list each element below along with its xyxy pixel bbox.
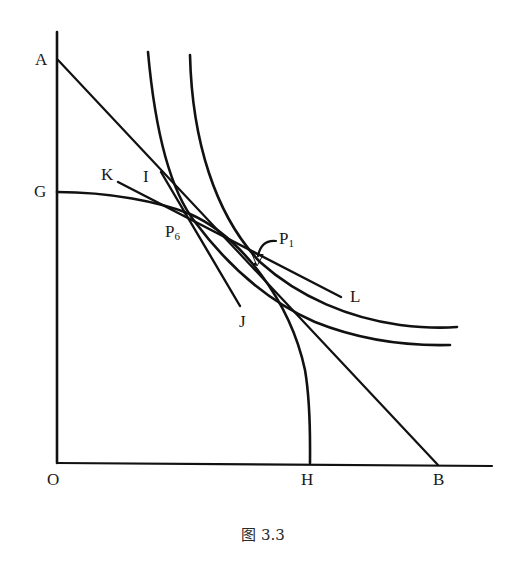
label-p6-sub: 6 xyxy=(174,230,180,242)
label-p1: P1 xyxy=(279,230,294,249)
figure-caption: 图 3.3 xyxy=(0,523,526,544)
label-b: B xyxy=(433,471,444,488)
line-kl xyxy=(118,182,341,297)
label-l: L xyxy=(350,288,360,305)
point-p1 xyxy=(254,263,257,266)
label-h: H xyxy=(301,471,313,488)
point-p6 xyxy=(184,212,187,215)
label-k: K xyxy=(101,166,113,183)
label-p1-sub: 1 xyxy=(288,237,294,249)
label-j: J xyxy=(239,313,246,330)
label-a: A xyxy=(35,51,47,68)
label-p6: P6 xyxy=(165,223,180,242)
diagram-canvas xyxy=(0,0,526,568)
p1-pointer-arrow xyxy=(258,241,276,256)
diagram-figure: A G O H B K I J L P6 P1 图 3.3 xyxy=(0,0,526,568)
line-ab xyxy=(58,60,438,465)
label-g: G xyxy=(34,183,46,200)
ppf-curve-gh xyxy=(57,192,310,463)
x-axis xyxy=(57,463,492,466)
label-o: O xyxy=(47,471,59,488)
label-i: I xyxy=(143,168,149,185)
